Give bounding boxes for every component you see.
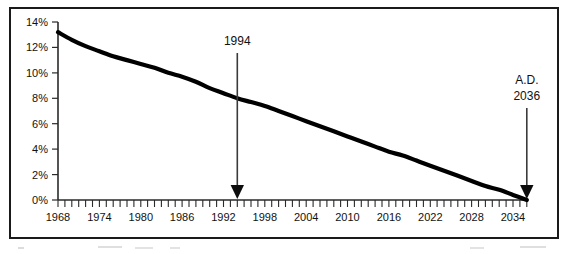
x-tick-label-2034: 2034 [501, 211, 525, 223]
x-tick-label-2004: 2004 [294, 211, 318, 223]
x-tick-label-1968: 1968 [46, 211, 70, 223]
x-tick-label-2028: 2028 [459, 211, 483, 223]
x-tick-label-1974: 1974 [87, 211, 111, 223]
x-tick-label-2010: 2010 [335, 211, 359, 223]
annotation-label-1994: 1994 [224, 34, 251, 48]
declining-percentage-line-chart: 0% 2% 4% 6% 8% 10% 12% 14% [0, 0, 568, 254]
y-tick-label-6: 12% [26, 41, 48, 53]
annotation-label-ad: A.D. [515, 73, 538, 87]
y-tick-label-5: 10% [26, 67, 48, 79]
chart-figure: 0% 2% 4% 6% 8% 10% 12% 14% [0, 0, 568, 254]
y-tick-label-0: 0% [32, 194, 48, 206]
x-tick-label-1992: 1992 [211, 211, 235, 223]
x-tick-label-1998: 1998 [253, 211, 277, 223]
x-tick-label-2016: 2016 [377, 211, 401, 223]
x-tick-label-1980: 1980 [129, 211, 153, 223]
annotation-label-2036: 2036 [513, 89, 540, 103]
y-tick-label-2: 4% [32, 143, 48, 155]
y-tick-label-7: 14% [26, 16, 48, 28]
y-tick-label-3: 6% [32, 118, 48, 130]
y-tick-label-4: 8% [32, 92, 48, 104]
x-tick-label-1986: 1986 [170, 211, 194, 223]
x-tick-label-2022: 2022 [418, 211, 442, 223]
y-tick-label-1: 2% [32, 169, 48, 181]
